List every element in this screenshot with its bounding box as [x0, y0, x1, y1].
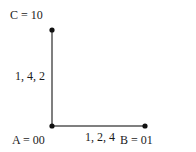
diagram-canvas: C = 10 A = 00 B = 01 1, 4, 2 1, 2, 4 [0, 0, 196, 152]
node-b-dot [142, 123, 147, 128]
node-c-label: C = 10 [10, 8, 43, 22]
node-b-label: B = 01 [120, 133, 153, 147]
edge-a-c-label: 1, 4, 2 [15, 69, 45, 83]
node-a-dot [49, 123, 54, 128]
edge-a-b-label: 1, 2, 4 [85, 130, 115, 144]
node-c-dot [49, 27, 54, 32]
node-a-label: A = 00 [12, 133, 45, 147]
